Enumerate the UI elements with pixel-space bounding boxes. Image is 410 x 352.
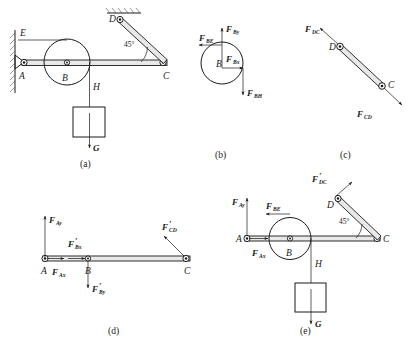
force-label-dc-prime-e: F DC ′ [311, 171, 327, 185]
force-label-ax-e: F Ax [251, 248, 266, 259]
force-label-bh-b: F BH [246, 88, 263, 99]
svg-text:F: F [225, 24, 232, 34]
pin-b-marker-a [64, 60, 69, 65]
figure-canvas: E A B C [0, 0, 410, 352]
force-label-ax-d: F Ax [51, 267, 66, 278]
svg-text:F: F [67, 239, 74, 249]
label-point-a-a: A [18, 71, 25, 81]
force-label-cd-prime-d: F CD ′ [161, 219, 177, 233]
force-label-dc-c: F DC [304, 24, 320, 35]
force-arrow-cd-prime-d [164, 236, 184, 256]
pin-b-marker-d [85, 256, 90, 261]
svg-text:BE: BE [272, 206, 281, 212]
panel-e: A B C D 45° F Ay F [231, 171, 390, 337]
svg-text:Ax: Ax [58, 272, 66, 278]
svg-text:F: F [246, 88, 253, 98]
force-label-ay-d: F Ay [48, 215, 62, 226]
label-point-h-e: H [314, 259, 323, 269]
label-point-b-a: B [62, 73, 68, 83]
svg-text:By: By [232, 29, 240, 35]
label-weight-a: G [93, 143, 100, 153]
svg-text:F: F [356, 109, 363, 119]
pin-d-marker-e [335, 195, 341, 201]
svg-text:F: F [48, 215, 55, 225]
pin-b-marker-e [287, 236, 292, 241]
svg-text:Ax: Ax [258, 253, 266, 259]
caption-d: (d) [108, 326, 119, 337]
beam-body-d [43, 256, 190, 261]
svg-text:F: F [91, 284, 98, 294]
force-label-by-prime-d: F By ′ [91, 281, 106, 295]
panel-a: E A B C [10, 8, 170, 170]
label-point-h-a: H [92, 82, 101, 92]
force-arrow-cd-c [384, 88, 402, 105]
svg-text:BH: BH [253, 93, 263, 99]
pin-c-marker-d [183, 255, 189, 261]
svg-text:F: F [225, 54, 232, 64]
force-label-bx-b: F Bx [225, 54, 240, 65]
label-weight-e: G [315, 319, 322, 329]
panel-c: D C F DC F CD (c) [304, 24, 402, 161]
panel-b: B F BE F By F Bx F B [198, 24, 263, 161]
label-point-e-a: E [19, 28, 26, 38]
label-angle-e: 45° [339, 217, 350, 226]
svg-text:F: F [251, 248, 258, 258]
svg-text:BE: BE [205, 38, 214, 44]
svg-text:F: F [265, 201, 272, 211]
label-point-a-d: A [40, 266, 47, 276]
block-h-e [295, 283, 326, 312]
force-label-be-e: F BE [265, 201, 281, 212]
pin-a-marker [21, 59, 27, 65]
label-point-d-e: D [326, 200, 334, 210]
label-point-b-e: B [286, 248, 292, 258]
force-arrow-dc-prime-e [336, 182, 352, 196]
caption-c: (c) [340, 150, 351, 161]
label-point-d-a: D [108, 14, 116, 24]
label-point-a-e: A [235, 234, 242, 244]
label-point-c-c: C [388, 80, 395, 90]
label-angle-a: 45° [124, 40, 135, 49]
svg-text:DC: DC [311, 29, 320, 35]
label-point-c-e: C [383, 234, 390, 244]
force-label-bx-prime-d: F Bx ′ [67, 236, 82, 250]
label-point-d-c: D [328, 42, 336, 52]
link-body-c [338, 45, 384, 89]
svg-text:F: F [231, 197, 238, 207]
svg-text:F: F [311, 174, 318, 184]
force-label-be-b: F BE [198, 33, 214, 44]
caption-a: (a) [80, 159, 91, 170]
force-label-by-b: F By [225, 24, 240, 35]
caption-e: (e) [300, 326, 311, 337]
force-label-cd-c: F CD [356, 109, 372, 120]
svg-text:F: F [198, 33, 205, 43]
caption-b: (b) [215, 150, 226, 161]
panel-d: A B C F Ay F Ax F Bx ′ [40, 215, 191, 337]
svg-text:F: F [304, 24, 311, 34]
svg-text:CD: CD [364, 114, 372, 120]
ceiling-support-d-a [106, 8, 141, 13]
svg-text:F: F [51, 267, 58, 277]
pin-d-marker-a [117, 16, 123, 22]
svg-text:Ay: Ay [55, 220, 62, 226]
svg-text:Bx: Bx [232, 59, 240, 65]
label-body-b: B [216, 59, 222, 69]
label-point-c-a: C [163, 71, 170, 81]
label-point-c-d: C [184, 266, 191, 276]
svg-text:F: F [161, 222, 168, 232]
force-label-ay-e: F Ay [231, 197, 245, 208]
svg-text:Ay: Ay [238, 202, 245, 208]
block-h-a [73, 107, 105, 137]
mechanics-figure-svg: E A B C [0, 0, 410, 352]
